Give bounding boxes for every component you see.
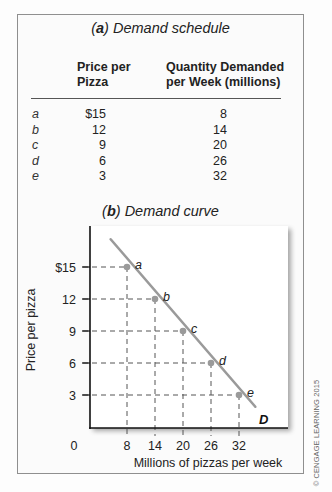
curve-label: D [259, 412, 269, 427]
data-point [180, 328, 187, 335]
point-label: e [247, 386, 254, 400]
point-label: c [191, 322, 198, 336]
x-tick-label: 14 [148, 439, 162, 453]
plot-panel [90, 226, 288, 428]
x-tick-label: 32 [232, 439, 246, 453]
data-point [208, 360, 215, 367]
y-tick-label: $15 [55, 261, 76, 275]
copyright-note: © CENGAGE LEARNING 2015 [312, 380, 321, 487]
point-label: d [219, 354, 227, 368]
y-tick-label: 3 [69, 389, 76, 403]
y-tick-label: 12 [62, 293, 76, 307]
demand-curve-chart: $15129630814202632abcdeDMillions of pizz… [0, 0, 332, 492]
x-axis-title: Millions of pizzas per week [134, 456, 283, 470]
data-point [236, 392, 243, 399]
x-tick-label: 26 [204, 439, 218, 453]
point-label: a [135, 258, 142, 272]
point-label: b [163, 290, 170, 304]
y-axis-title: Price per pizza [24, 289, 38, 372]
data-point [152, 296, 159, 303]
x-tick-label: 20 [176, 439, 190, 453]
x-origin-label: 0 [71, 439, 78, 453]
x-tick-label: 8 [124, 439, 131, 453]
y-tick-label: 6 [69, 357, 76, 371]
y-tick-label: 9 [69, 325, 76, 339]
data-point [124, 264, 131, 271]
